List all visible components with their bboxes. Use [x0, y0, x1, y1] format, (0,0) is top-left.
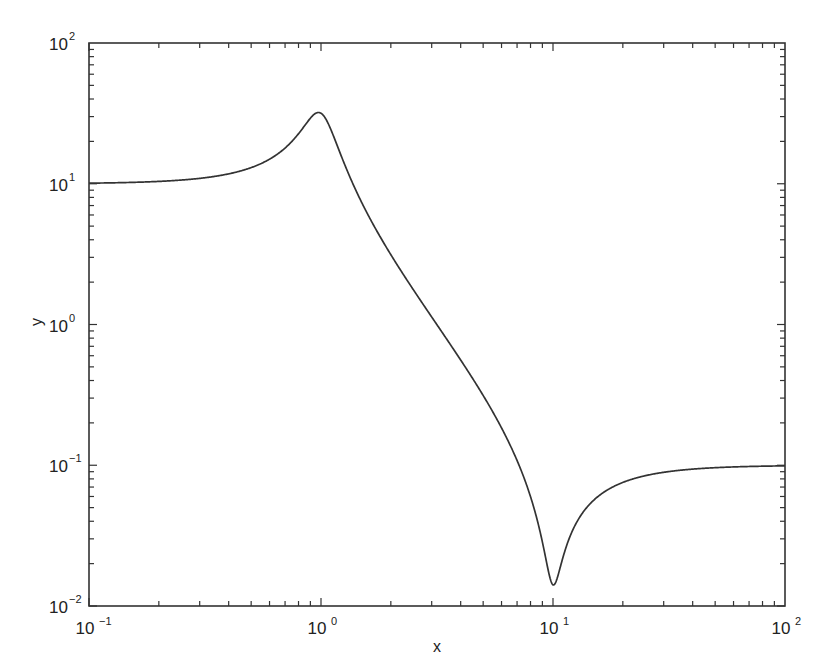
- x-tick-label: 10: [308, 619, 327, 638]
- y-tick-exponent: −2: [69, 593, 82, 605]
- x-tick-label: 10: [76, 619, 95, 638]
- y-tick-labels: 10−210−1100101102: [49, 30, 81, 617]
- x-tick-labels: 10−1100101102: [76, 615, 802, 638]
- y-tick-label: 10: [49, 176, 68, 195]
- y-tick-exponent: 1: [69, 171, 75, 183]
- y-tick-exponent: 2: [69, 30, 75, 42]
- x-tick-label: 10: [540, 619, 559, 638]
- x-axis-label: x: [433, 638, 441, 655]
- y-axis-label: y: [28, 318, 45, 326]
- y-tick-exponent: 0: [69, 312, 75, 324]
- y-tick-label: 10: [49, 457, 68, 476]
- x-tick-exponent: 0: [331, 615, 337, 627]
- x-tick-exponent: 2: [795, 615, 801, 627]
- y-tick-label: 10: [49, 317, 68, 336]
- y-tick-label: 10: [49, 35, 68, 54]
- x-tick-label: 10: [772, 619, 791, 638]
- y-tick-label: 10: [49, 598, 68, 617]
- x-minor-ticks: [89, 43, 774, 606]
- data-curve: [89, 112, 785, 585]
- y-minor-ticks: [89, 49, 785, 606]
- x-tick-exponent: 1: [563, 615, 569, 627]
- chart: 10−1100101102 10−210−1100101102 x y: [0, 0, 815, 671]
- x-tick-exponent: −1: [99, 615, 112, 627]
- y-tick-exponent: −1: [69, 452, 82, 464]
